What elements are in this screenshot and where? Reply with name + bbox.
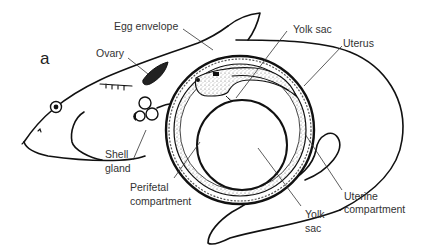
gill-marks	[100, 84, 132, 90]
pectoral-fin	[72, 112, 103, 160]
label-uterus: Uterus	[343, 37, 374, 49]
label-shell-gland-line1: Shell	[105, 148, 128, 160]
label-perifetal-line2: compartment	[130, 195, 191, 207]
shark-reproductive-anatomy-diagram: a	[0, 0, 429, 252]
label-uterine-line2: compartment	[344, 203, 405, 215]
label-yolk-sac-bottom-line2: sac	[305, 222, 321, 234]
label-ovary: Ovary	[96, 47, 125, 59]
panel-letter: a	[40, 49, 50, 68]
label-uterine-compartment: Uterine compartment	[344, 190, 405, 215]
nostril	[38, 129, 41, 132]
label-yolk-sac-bottom-line1: Yolk	[305, 208, 325, 220]
label-perifetal-line1: Perifetal	[130, 181, 169, 193]
dorsal-fin	[228, 13, 260, 40]
label-egg-envelope: Egg envelope	[114, 20, 178, 32]
label-uterine-line1: Uterine	[344, 190, 378, 202]
label-yolk-sac-top: Yolk sac	[293, 23, 332, 35]
label-perifetal-compartment: Perifetal compartment	[130, 181, 191, 207]
label-yolk-sac-bottom: Yolk sac	[305, 208, 327, 234]
label-shell-gland-line2: gland	[105, 162, 131, 174]
ovary	[143, 62, 168, 85]
shell-gland	[133, 97, 170, 121]
